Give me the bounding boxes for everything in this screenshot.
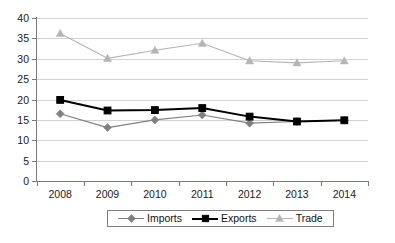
imports-line-marker-icon [118, 213, 144, 224]
data-point-marker [199, 105, 206, 112]
legend-label: Exports [221, 213, 257, 224]
series-line [60, 33, 344, 62]
legend-item-exports[interactable]: Exports [192, 213, 257, 224]
data-point-marker [151, 116, 159, 124]
series-plot [0, 0, 395, 243]
trade-line-marker-icon [267, 213, 293, 224]
figure: 4035302520151050 20082009201020112012201… [0, 0, 395, 243]
data-point-marker [246, 113, 253, 120]
series-exports [57, 97, 348, 125]
data-point-marker [57, 97, 64, 104]
legend-label: Imports [147, 213, 182, 224]
data-point-marker [198, 39, 206, 46]
legend-item-trade[interactable]: Trade [267, 213, 323, 224]
series-trade [56, 29, 348, 65]
data-point-marker [294, 118, 301, 125]
data-point-marker [246, 57, 254, 64]
data-point-marker [104, 124, 112, 132]
data-point-marker [198, 111, 206, 119]
data-point-marker [104, 107, 111, 114]
chart-legend: ImportsExportsTrade [107, 210, 334, 227]
legend-item-imports[interactable]: Imports [118, 213, 182, 224]
data-point-marker [340, 57, 348, 64]
exports-line-marker-icon [192, 213, 218, 224]
data-point-marker [151, 107, 158, 114]
data-point-marker [341, 117, 348, 124]
legend-label: Trade [296, 213, 323, 224]
data-point-marker [56, 110, 64, 118]
data-point-marker [56, 29, 64, 36]
